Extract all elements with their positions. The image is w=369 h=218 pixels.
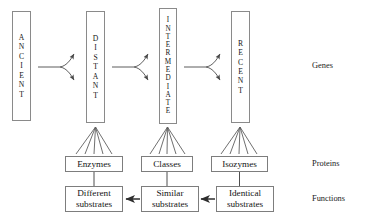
gene-letter: I	[20, 61, 23, 70]
gene-letter: D	[165, 74, 170, 82]
function-label-line2: substrates	[227, 199, 263, 210]
gene-letter: R	[238, 39, 243, 48]
function-label-line2: substrates	[76, 199, 112, 210]
gene-letter: C	[19, 52, 24, 61]
row-label-functions: Functions	[312, 194, 345, 203]
gene-letter: T	[238, 86, 243, 95]
gene-letter: N	[165, 25, 170, 33]
fanout-distant-to-enzymes	[76, 127, 112, 154]
function-box-similar-substrates: Similar substrates	[141, 186, 199, 212]
gene-box-ancient: A N C I E N T	[12, 11, 31, 121]
branch-arrow-intermediate-to-recent	[184, 54, 220, 80]
gene-letter: N	[19, 80, 24, 89]
row-label-genes: Genes	[312, 61, 333, 70]
gene-letter: T	[93, 62, 98, 71]
function-label-line1: Similar	[152, 188, 188, 199]
gene-letter: R	[166, 49, 171, 57]
gene-letter: A	[19, 33, 24, 42]
gene-letter: E	[166, 66, 170, 74]
gene-letter: T	[19, 90, 24, 99]
function-box-different-substrates: Different substrates	[65, 186, 123, 212]
gene-letter: E	[166, 107, 170, 115]
protein-label: Isozymes	[222, 159, 257, 170]
gene-letter: T	[93, 91, 98, 100]
gene-letter: E	[238, 67, 243, 76]
gene-letter: S	[93, 53, 97, 62]
gene-letter: I	[167, 83, 169, 91]
gene-letter: N	[19, 42, 24, 51]
gene-letter: M	[165, 58, 171, 66]
gene-letter: E	[166, 41, 170, 49]
gene-letter: D	[93, 34, 98, 43]
gene-box-intermediate: I N T E R M E D I A T E	[159, 8, 177, 124]
gene-letter: A	[93, 72, 98, 81]
gene-letter: E	[19, 71, 24, 80]
row-label-proteins: Proteins	[312, 159, 339, 168]
gene-letter: I	[167, 16, 169, 24]
gene-letter: C	[238, 58, 243, 67]
function-label-line2: substrates	[152, 199, 188, 210]
diagram-canvas: A N C I E N T D I S T A N T I N T E R M …	[0, 0, 369, 218]
gene-letter: T	[166, 33, 170, 41]
function-box-identical-substrates: Identical substrates	[216, 186, 274, 212]
protein-box-isozymes: Isozymes	[211, 156, 268, 172]
gene-letter: E	[238, 48, 243, 57]
fanout-intermediate-to-classes	[150, 127, 185, 154]
protein-box-enzymes: Enzymes	[65, 156, 123, 172]
protein-label: Enzymes	[77, 159, 111, 170]
protein-box-classes: Classes	[141, 156, 193, 172]
gene-letter: N	[238, 76, 243, 85]
gene-letter: A	[165, 91, 170, 99]
function-label-line1: Different	[76, 188, 112, 199]
fanout-recent-to-isozymes	[221, 127, 257, 154]
gene-letter: T	[166, 99, 170, 107]
branch-arrow-distant-to-intermediate	[112, 54, 148, 80]
gene-letter: N	[93, 81, 98, 90]
gene-letter: I	[94, 43, 97, 52]
gene-box-distant: D I S T A N T	[86, 11, 105, 123]
protein-label: Classes	[153, 159, 181, 170]
branch-arrow-ancient-to-distant	[38, 54, 74, 80]
function-label-line1: Identical	[227, 188, 263, 199]
gene-box-recent: R E C E N T	[231, 11, 250, 123]
